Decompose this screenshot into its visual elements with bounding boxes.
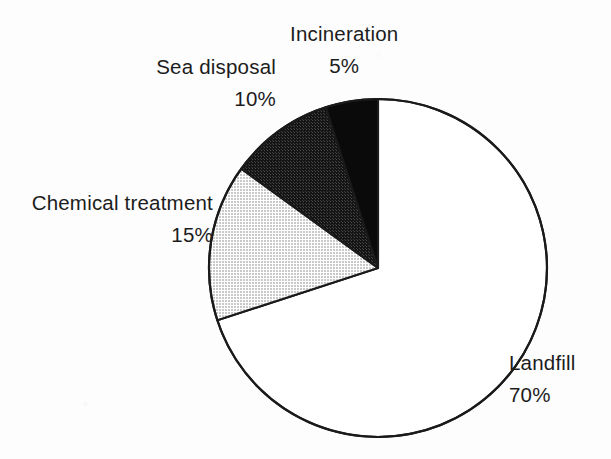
callout-incineration-value: 5% [290, 53, 398, 79]
callout-chemical-treatment-value: 15% [23, 222, 213, 248]
callout-sea-disposal-value: 10% [152, 86, 276, 112]
callout-landfill-label: Landfill [509, 350, 576, 376]
callout-incineration: Incineration 5% [290, 21, 398, 79]
callout-incineration-label: Incineration [290, 21, 398, 47]
callout-chemical-treatment: Chemical treatment 15% [23, 190, 213, 248]
callout-landfill-value: 70% [509, 382, 576, 408]
callout-landfill: Landfill 70% [509, 350, 576, 408]
callout-sea-disposal-label: Sea disposal [152, 54, 276, 80]
callout-sea-disposal: Sea disposal 10% [152, 54, 276, 112]
callout-chemical-treatment-label: Chemical treatment [23, 190, 213, 216]
pie-chart-figure: Incineration 5% Sea disposal 10% Chemica… [0, 0, 611, 459]
